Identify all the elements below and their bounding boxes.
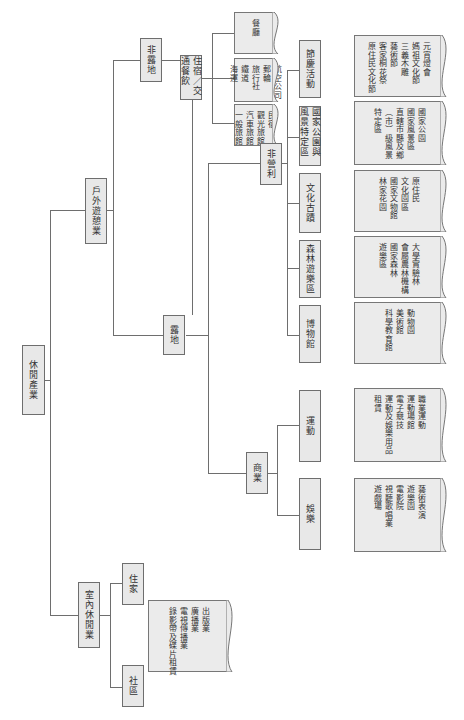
node-national-park: 國家公園與風景特定區	[299, 106, 321, 166]
node-museum: 博物館	[299, 305, 321, 363]
wavy-edge-icon	[272, 104, 286, 146]
node-sports: 運動	[299, 390, 321, 462]
node-label: 社區	[127, 676, 139, 696]
node-nonprofit: 非營利	[260, 143, 282, 185]
leaf-hotels: 民宿 觀光旅館 汽車旅館 一般旅館	[234, 104, 274, 146]
connector	[287, 70, 299, 71]
connector	[45, 380, 51, 381]
connector	[50, 210, 85, 211]
connector	[212, 33, 234, 34]
connector	[113, 335, 163, 336]
connector	[162, 60, 180, 61]
wavy-edge-icon	[440, 101, 454, 165]
node-site: 露地	[163, 315, 185, 355]
wavy-edge-icon	[272, 58, 286, 102]
leaf-text: 餐廳	[249, 19, 260, 36]
connector	[110, 583, 122, 584]
node-label: 住宿／交通餐飲	[179, 56, 203, 99]
node-home: 住家	[122, 563, 144, 605]
node-label: 國家公園與風景特定區	[298, 107, 322, 165]
connector	[208, 473, 246, 474]
leaf-text: 原住民 文化園區 國家文物館 林家花園	[377, 177, 421, 220]
connector	[107, 210, 113, 211]
node-label: 娛樂	[304, 504, 316, 524]
leaf-text: 國家公園 國家風景區 直轄市縣及鄉 （市）級風景 特定區	[371, 108, 426, 159]
node-root: 休閒產業	[22, 345, 45, 415]
node-outdoor: 戶外遊憩業	[85, 178, 107, 244]
connector	[110, 583, 111, 687]
node-label: 非露地	[145, 45, 157, 75]
leaf-museum: 動物園 美術館 科學教育館	[354, 302, 442, 364]
connector	[208, 163, 209, 473]
leaf-text: 職業運動 運動場館 電子競技 運動及娛樂用品 租賃	[371, 395, 426, 455]
wavy-edge-icon	[440, 388, 454, 462]
leaf-text: 動物園 美術館 科學教育館	[382, 309, 415, 352]
leaf-sports: 職業運動 運動場館 電子競技 運動及娛樂用品 租賃	[354, 388, 442, 462]
node-entertainment: 娛樂	[299, 478, 321, 550]
connector	[287, 268, 299, 269]
node-community: 社區	[122, 665, 144, 707]
wavy-edge-icon	[440, 170, 454, 232]
connector	[113, 60, 140, 61]
node-heritage: 文化古蹟	[299, 173, 321, 233]
node-label: 住家	[127, 574, 139, 594]
leaf-forest: 大學實驗林 會屬農林機構 國家森林 遊樂區	[354, 236, 442, 298]
node-forest: 森林遊樂區	[299, 240, 321, 298]
node-label: 室內休閒業	[83, 590, 95, 640]
node-festival: 節慶活動	[299, 40, 321, 98]
node-indoor: 室內休閒業	[78, 582, 100, 648]
leaf-national-park: 國家公園 國家風景區 直轄市縣及鄉 （市）級風景 特定區	[354, 101, 442, 165]
node-lodging: 住宿／交通餐飲	[180, 55, 202, 100]
node-label: 文化古蹟	[304, 183, 316, 223]
node-label: 節慶活動	[304, 49, 316, 89]
connector	[208, 163, 260, 164]
node-non-site: 非露地	[140, 38, 162, 82]
wavy-edge-icon	[440, 302, 454, 364]
wavy-edge-icon	[440, 236, 454, 298]
node-commercial: 商業	[246, 452, 268, 494]
leaf-text: 藝術表演 遊樂園 電影院 視聽歌唱業 遊戲場	[371, 485, 426, 528]
leaf-entertainment: 藝術表演 遊樂園 電影院 視聽歌唱業 遊戲場	[354, 478, 442, 552]
connector	[287, 335, 299, 336]
connector	[50, 615, 78, 616]
node-label: 休閒產業	[28, 360, 40, 400]
leaf-heritage: 原住民 文化園區 國家文物館 林家花園	[354, 170, 442, 232]
wavy-edge-icon	[440, 35, 454, 97]
wavy-edge-icon	[272, 12, 286, 54]
node-label: 非營利	[265, 149, 277, 179]
connector	[113, 60, 114, 335]
leaf-text: 大學實驗林 會屬農林機構 國家森林 遊樂區	[377, 243, 421, 294]
connector	[287, 203, 299, 204]
node-label: 運動	[304, 416, 316, 436]
connector	[50, 210, 51, 615]
node-label: 露地	[168, 325, 180, 345]
node-label: 商業	[251, 463, 263, 483]
connector	[282, 163, 287, 164]
connector	[212, 123, 234, 124]
connector	[277, 425, 299, 426]
connector	[277, 425, 278, 515]
leaf-transport: 航空公司 郵輪 旅行社 鐵道 海運	[234, 58, 274, 102]
connector	[186, 335, 208, 336]
node-label: 戶外遊憩業	[90, 186, 102, 236]
leaf-text: 出版業 廣播業 電視傳播業 錄影帶及碟片租賃	[167, 607, 211, 675]
wavy-edge-icon	[440, 478, 454, 552]
wavy-edge-icon	[226, 600, 240, 672]
leaf-text: 元宵燈會 媽祖文化節 三義木雕 藝術節 客家桐花祭 原住民文化節	[366, 42, 432, 93]
node-label: 博物館	[304, 319, 316, 349]
node-label: 森林遊樂區	[304, 244, 316, 294]
connector	[100, 615, 110, 616]
leaf-festival: 元宵燈會 媽祖文化節 三義木雕 藝術節 客家桐花祭 原住民文化節	[354, 35, 442, 97]
connector	[277, 515, 299, 516]
leaf-text: 民宿 觀光旅館 汽車旅館 一般旅館	[233, 111, 277, 145]
leaf-restaurant: 餐廳	[234, 12, 274, 54]
connector	[110, 687, 122, 688]
connector	[192, 100, 193, 315]
leaf-media: 出版業 廣播業 電視傳播業 錄影帶及碟片租賃	[148, 600, 228, 672]
connector	[268, 473, 277, 474]
